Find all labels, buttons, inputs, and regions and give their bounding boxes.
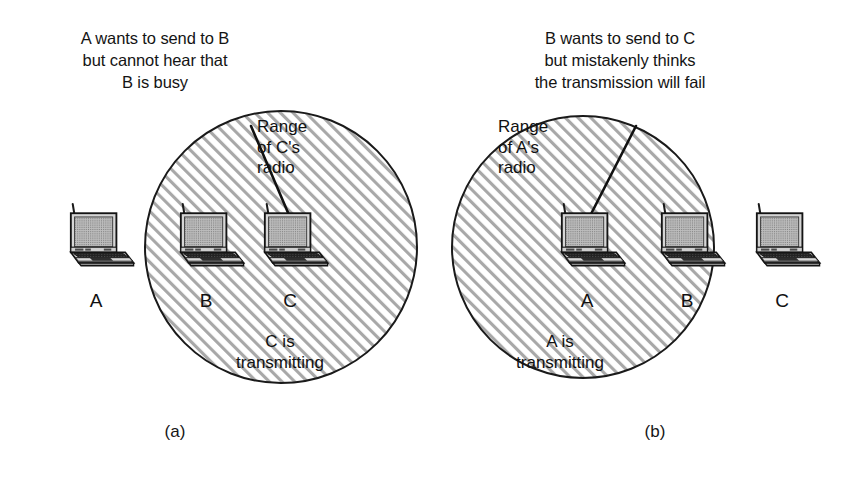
node-label-a-C: C <box>270 290 310 312</box>
panel-label-b: (b) <box>625 422 685 442</box>
diagram-svg <box>0 0 851 482</box>
node-label-b-C: C <box>762 290 802 312</box>
node-label-a-A: A <box>76 290 116 312</box>
range-label-a: Range of C's radio <box>257 117 347 179</box>
node-label-b-B: B <box>667 290 707 312</box>
transmit-label-b: A is transmitting <box>485 332 635 373</box>
panel-label-a: (a) <box>145 422 205 442</box>
node-label-b-A: A <box>567 290 607 312</box>
node-label-a-B: B <box>186 290 226 312</box>
laptop-b3 <box>757 204 820 266</box>
laptop-b2 <box>662 204 725 266</box>
transmit-label-a: C is transmitting <box>210 332 350 373</box>
laptop-a1 <box>71 204 134 266</box>
figure-canvas: A wants to send to B but cannot hear tha… <box>0 0 851 482</box>
range-label-b: Range of A's radio <box>498 117 588 179</box>
